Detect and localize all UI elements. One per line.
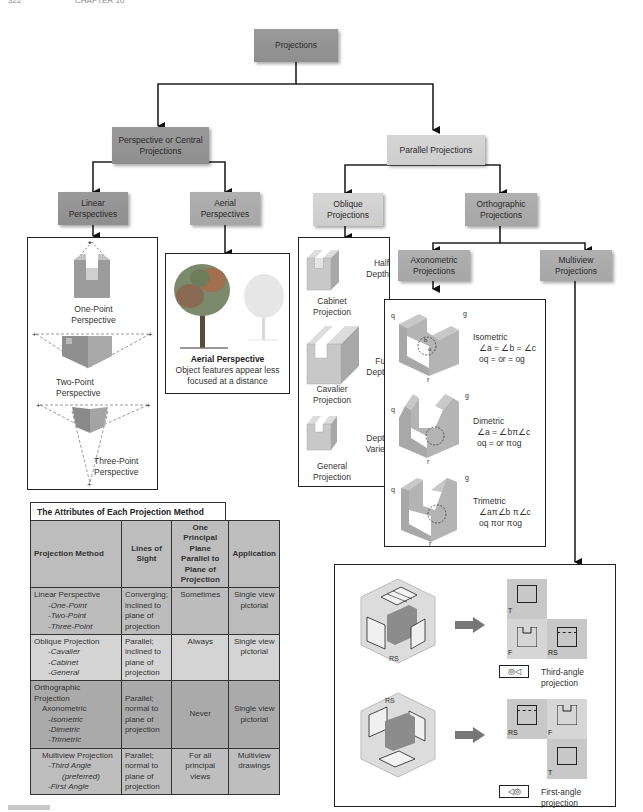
- table-title: The Attributes of Each Projection Method: [30, 502, 226, 521]
- trimetric-label: Trimetric ∠aπ∠b π∠c oq πor πog: [473, 496, 545, 529]
- cell-sight: Parallel; normal to plane of projection: [121, 681, 171, 748]
- cell-sight: Parallel; inclined to plane of projectio…: [121, 634, 171, 681]
- third-angle-caption: Third-angle projection: [541, 667, 615, 689]
- trimetric-block-icon: qgr: [391, 470, 471, 546]
- trimetric-name: Trimetric: [473, 496, 506, 506]
- trimetric-lengths: oq πor πog: [473, 518, 522, 528]
- oblique-name-2: General Projection: [301, 461, 363, 482]
- trimetric-angles: ∠aπ∠b π∠c: [473, 507, 531, 517]
- node-axonometric-projections: Axonometric Projections: [398, 250, 470, 281]
- aerial-perspective-title: Aerial Perspective: [166, 354, 289, 365]
- isometric-label: Isometric ∠a = ∠b = ∠c oq = or = og: [473, 332, 545, 365]
- svg-text:*: *: [88, 239, 92, 249]
- third-right-side-view: RS: [547, 619, 587, 659]
- table-row: Orthographic Projection Axonometric -Iso…: [31, 681, 280, 748]
- svg-text:r: r: [427, 458, 430, 464]
- two-point-cube-icon: ++: [28, 330, 159, 380]
- three-point-label: Three-Point Perspective: [94, 456, 158, 477]
- first-angle-caption: First-angle projection: [541, 787, 615, 809]
- cell-application: Single view pictorial: [229, 634, 280, 681]
- cell-application: Single view pictorial: [229, 588, 280, 635]
- dimetric-label: Dimetric ∠a = ∠bπ∠c oq = or πog: [473, 416, 545, 449]
- table-header-row: Projection Method Lines of Sight One Pri…: [31, 521, 280, 588]
- oblique-name-0: Cabinet Projection: [301, 296, 363, 317]
- first-angle-symbol-icon: ◁◎: [499, 785, 529, 798]
- cell-plane: Sometimes: [172, 588, 229, 635]
- node-parallel-projections: Parallel Projections: [387, 135, 485, 165]
- svg-text:+: +: [32, 330, 37, 339]
- svg-text:RS: RS: [389, 655, 399, 662]
- header-application: Application: [229, 521, 280, 588]
- cell-sight: Converging; inclined to plane of project…: [121, 588, 171, 635]
- arrow-right-icon: [455, 727, 487, 743]
- dimetric-lengths: oq = or πog: [473, 438, 521, 448]
- near-tree-icon: [174, 264, 230, 348]
- oblique-depth-0: Half Depth: [359, 258, 389, 280]
- third-angle-symbol-icon: ◎◁: [499, 665, 529, 678]
- svg-text:+: +: [148, 330, 153, 339]
- two-point-label: Two-Point Perspective: [28, 377, 159, 398]
- figure-label-bar: [8, 805, 50, 810]
- third-angle-glass-box-icon: RS: [357, 575, 439, 667]
- isometric-block-icon: qgr bo: [391, 306, 471, 382]
- general-block-icon: [303, 410, 349, 452]
- node-projections: Projections: [254, 29, 338, 62]
- cell-method: Multiview Projection -Third Angle (prefe…: [31, 748, 122, 795]
- svg-text:q: q: [391, 406, 395, 414]
- svg-text:+: +: [87, 480, 92, 489]
- cell-plane: Never: [172, 681, 229, 748]
- node-linear-perspectives: Linear Perspectives: [58, 192, 128, 225]
- svg-text:+: +: [146, 401, 151, 410]
- table-row: Multiview Projection -Third Angle (prefe…: [31, 748, 280, 795]
- multiview-projection-panel: RS T F RS ◎◁ Third-angle projection RS R…: [334, 564, 616, 807]
- isometric-name: Isometric: [473, 332, 507, 342]
- far-tree-icon: [244, 274, 284, 340]
- third-top-view: T: [507, 579, 547, 619]
- svg-text:q: q: [391, 486, 395, 494]
- cell-method: Orthographic Projection Axonometric -Iso…: [31, 681, 122, 748]
- cabinet-block-icon: [303, 246, 349, 292]
- first-front-view: F: [547, 699, 587, 739]
- svg-text:r: r: [427, 376, 430, 382]
- svg-text:RS: RS: [385, 697, 395, 704]
- cell-plane: Always: [172, 634, 229, 681]
- oblique-name-1: Cavalier Projection: [301, 384, 363, 405]
- oblique-projection-panel: Half Depth Cabinet Projection Full Depth…: [298, 237, 390, 487]
- cavalier-block-icon: [303, 322, 367, 386]
- linear-perspective-panel: * One-Point Perspective ++ Two-Point Per…: [27, 237, 158, 490]
- isometric-angles: ∠a = ∠b = ∠c: [473, 343, 536, 353]
- node-orthographic-projections: Orthographic Projections: [465, 193, 537, 226]
- first-top-view: T: [547, 739, 587, 779]
- dimetric-name: Dimetric: [473, 416, 504, 426]
- cell-method: Oblique Projection -Cavalier -Cabinet -G…: [31, 634, 122, 681]
- svg-text:g: g: [465, 392, 469, 400]
- aerial-perspective-caption: Object features appear less focused at a…: [170, 365, 285, 386]
- svg-text:g: g: [463, 310, 467, 318]
- cell-method: Linear Perspective -One-Point -Two-Point…: [31, 588, 122, 635]
- first-angle-glass-box-icon: RS: [357, 689, 439, 781]
- node-multiview-projections: Multiview Projections: [540, 250, 612, 281]
- three-point-cube-icon: ++ +: [28, 401, 159, 491]
- cell-application: Single view pictorial: [229, 681, 280, 748]
- trees-illustration: [170, 258, 288, 352]
- cell-sight: Parallel; normal to plane of projection: [121, 748, 171, 795]
- aerial-perspective-panel: Aerial Perspective Object features appea…: [165, 253, 290, 394]
- node-oblique-projections: Oblique Projections: [313, 193, 383, 226]
- arrow-right-icon: [455, 617, 487, 633]
- dimetric-block-icon: qgr: [391, 388, 471, 464]
- header-method: Projection Method: [31, 521, 122, 588]
- table-row: Linear Perspective -One-Point -Two-Point…: [31, 588, 280, 635]
- one-point-label: One-Point Perspective: [28, 304, 159, 325]
- cell-plane: For all principal views: [172, 748, 229, 795]
- svg-text:q: q: [391, 312, 395, 320]
- node-aerial-perspectives: Aerial Perspectives: [190, 192, 260, 225]
- attributes-table: Projection Method Lines of Sight One Pri…: [30, 520, 280, 795]
- table-row: Oblique Projection -Cavalier -Cabinet -G…: [31, 634, 280, 681]
- third-front-view: F: [507, 619, 547, 659]
- cell-application: Multiview drawings: [229, 748, 280, 795]
- axonometric-projection-panel: qgr bo Isometric ∠a = ∠b = ∠c oq = or = …: [384, 299, 546, 547]
- isometric-lengths: oq = or = og: [473, 354, 525, 364]
- one-point-cube-icon: *: [62, 238, 122, 302]
- node-perspective-projections: Perspective or Central Projections: [112, 127, 209, 164]
- header-sight: Lines of Sight: [121, 521, 171, 588]
